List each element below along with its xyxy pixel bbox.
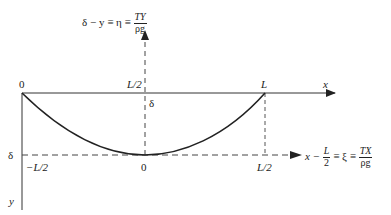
catenary-curve	[22, 93, 265, 155]
half-fraction: L 2	[323, 146, 331, 168]
bottom-zero-label: 0	[141, 162, 147, 173]
eta-fraction-den: ρg	[135, 24, 145, 35]
bottom-half-length-label: L/2	[257, 162, 272, 173]
sag-delta-label: δ	[149, 98, 154, 109]
xi-label-mid: ≡ ξ ≡	[333, 150, 356, 162]
left-delta-label: δ	[8, 150, 13, 161]
eta-fraction-num: TY	[134, 12, 147, 24]
origin-label: 0	[19, 79, 25, 90]
xi-fraction-num: TX	[359, 146, 373, 158]
xi-fraction: TX ρg	[359, 146, 373, 168]
xi-label-lhs: x −	[305, 150, 320, 162]
y-axis-label: y	[9, 196, 14, 207]
eta-label-lhs: δ − y ≡ η ≡	[82, 16, 131, 28]
neg-half-length-label: −L/2	[26, 162, 48, 173]
xi-axis-arrowhead	[290, 151, 302, 159]
length-label: L	[261, 79, 267, 90]
eta-axis-label: δ − y ≡ η ≡ TY ρg	[82, 12, 147, 34]
half-fraction-den: 2	[324, 158, 329, 169]
half-length-top-label: L/2	[127, 79, 142, 90]
eta-fraction: TY ρg	[134, 12, 147, 34]
x-axis-label: x	[323, 79, 328, 90]
xi-fraction-den: ρg	[361, 158, 371, 169]
catenary-diagram	[0, 0, 391, 215]
half-fraction-num: L	[323, 146, 331, 158]
xi-axis-label: x − L 2 ≡ ξ ≡ TX ρg	[305, 146, 372, 168]
